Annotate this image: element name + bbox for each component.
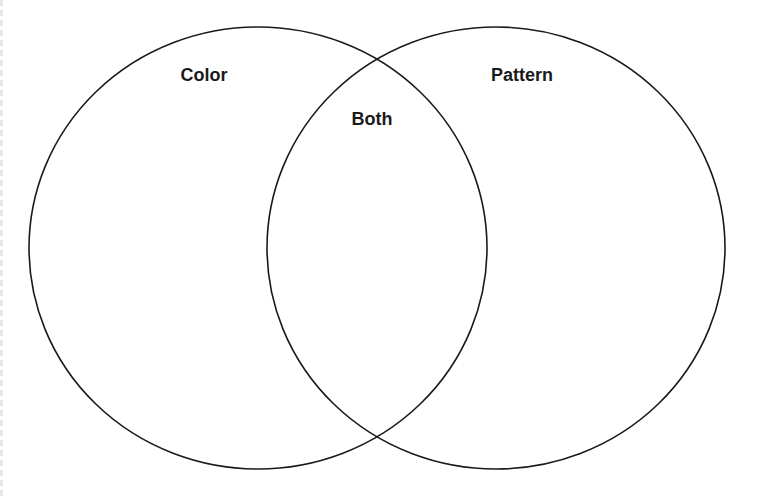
pattern-label: Pattern [491, 65, 553, 86]
both-label: Both [352, 109, 393, 130]
pattern-circle [267, 27, 725, 469]
color-label: Color [181, 65, 228, 86]
venn-diagram [0, 0, 758, 496]
color-circle [29, 27, 487, 469]
